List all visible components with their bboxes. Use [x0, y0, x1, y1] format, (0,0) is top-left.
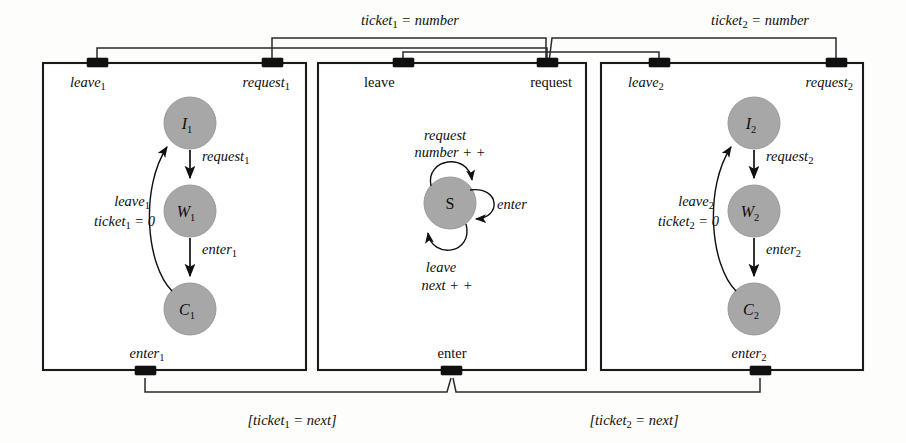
label-port-enter1: enter1 — [129, 345, 164, 363]
edge-label-enter2: enter2 — [766, 241, 801, 259]
statechart-diagram: leave1 request1 enter1 I1 W1 C1 request1… — [0, 0, 906, 443]
connector-leave1-to-server-leave — [97, 48, 547, 63]
port-request1[interactable] — [262, 58, 283, 67]
port-request2[interactable] — [826, 58, 847, 67]
label-port-server-leave: leave — [364, 74, 395, 90]
edge-label-request2: request2 — [766, 148, 813, 166]
state-I2[interactable] — [728, 97, 780, 149]
label-port-server-request: request — [530, 74, 572, 90]
connector-label-ticket2-next: [ticket2 = next] — [589, 412, 678, 430]
selfloop-label-next-inc: next + + — [422, 277, 473, 293]
diagram-canvas: leave1 request1 enter1 I1 W1 C1 request1… — [0, 0, 906, 443]
edge-label-ticket2-zero: ticket2 = 0 — [658, 213, 720, 231]
label-port-request1: request1 — [243, 74, 290, 92]
connector-ticket2-number — [549, 38, 836, 63]
selfloop-label-request: request — [424, 127, 467, 143]
port-server-leave[interactable] — [393, 58, 414, 67]
connector-ticket2-next — [453, 378, 760, 392]
selfloop-label-leave: leave — [426, 259, 457, 275]
edge-label-leave2: leave2 — [678, 193, 714, 211]
label-port-enter2: enter2 — [731, 345, 766, 363]
label-port-leave2: leave2 — [628, 74, 664, 92]
label-port-leave1: leave1 — [70, 74, 106, 92]
selfloop-label-enter: enter — [497, 196, 527, 212]
port-server-enter[interactable] — [441, 366, 462, 375]
state-I1[interactable] — [164, 97, 216, 149]
port-enter1[interactable] — [135, 366, 156, 375]
connector-server-leave-to-leave2 — [403, 52, 659, 63]
connector-label-ticket1-next: [ticket1 = next] — [247, 412, 336, 430]
edge-label-leave1: leave1 — [114, 193, 150, 211]
port-enter2[interactable] — [750, 366, 771, 375]
label-port-server-enter: enter — [438, 345, 467, 361]
label-port-request2: request2 — [806, 74, 853, 92]
selfloop-label-number-inc: number + + — [414, 144, 485, 160]
port-leave1[interactable] — [87, 58, 108, 67]
edge-label-request1: request1 — [202, 148, 249, 166]
port-server-request[interactable] — [537, 58, 558, 67]
connector-ticket1-next — [145, 378, 451, 392]
port-leave2[interactable] — [649, 58, 670, 67]
edge-label-enter1: enter1 — [202, 241, 237, 259]
connector-label-ticket1-number: ticket1 = number — [361, 12, 459, 30]
edge-label-ticket1-zero: ticket1 = 0 — [94, 213, 156, 231]
state-label-S: S — [446, 195, 455, 212]
connector-label-ticket2-number: ticket2 = number — [711, 12, 809, 30]
